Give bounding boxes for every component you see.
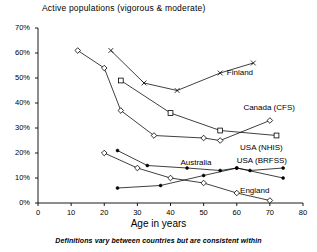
series-label-canada-cfs: Canada (CFS) <box>243 103 295 112</box>
data-point-marker <box>201 180 207 186</box>
series-label-australia: Australia <box>180 158 211 167</box>
y-tick-label: 0% <box>4 198 30 207</box>
data-point-marker <box>101 65 107 71</box>
y-tick-label: 20% <box>4 148 30 157</box>
data-point-marker <box>168 111 173 116</box>
x-tick-label: 20 <box>94 208 114 217</box>
x-tick-label: 60 <box>227 208 247 217</box>
y-tick-label: 30% <box>4 123 30 132</box>
data-point-marker <box>282 177 285 180</box>
data-point-marker <box>217 138 223 144</box>
x-tick-label: 0 <box>28 208 48 217</box>
data-point-marker <box>118 108 124 114</box>
data-point-marker <box>235 167 238 170</box>
data-point-marker <box>116 187 119 190</box>
series-label-finland: Finland <box>227 68 253 77</box>
data-point-marker <box>75 48 81 54</box>
y-tick-label: 50% <box>4 73 30 82</box>
data-point-marker <box>146 164 149 167</box>
x-tick-label: 30 <box>127 208 147 217</box>
data-point-marker <box>218 128 223 133</box>
data-point-marker <box>267 198 273 204</box>
data-point-marker <box>201 135 207 141</box>
data-point-marker <box>251 61 256 66</box>
y-tick-label: 40% <box>4 98 30 107</box>
data-point-marker <box>282 167 285 170</box>
data-point-marker <box>135 165 141 171</box>
data-point-marker <box>202 174 205 177</box>
chart-footnote: Definitions vary between countries but a… <box>0 237 317 244</box>
y-tick-label: 10% <box>4 173 30 182</box>
x-tick-label: 10 <box>61 208 81 217</box>
series-label-usa-brfss: USA (BRFSS) <box>237 156 287 165</box>
y-tick-label: 70% <box>4 23 30 32</box>
series-line-canada-cfs <box>78 51 270 141</box>
x-tick-label: 50 <box>194 208 214 217</box>
series-label-england: England <box>240 186 269 195</box>
chart-figure: Active populations (vigorous & moderate)… <box>0 0 317 252</box>
data-point-marker <box>151 133 157 139</box>
data-point-marker <box>159 184 162 187</box>
data-point-marker <box>267 118 273 124</box>
data-point-marker <box>116 149 119 152</box>
data-point-marker <box>118 78 123 83</box>
data-point-marker <box>218 71 223 76</box>
y-tick-label: 60% <box>4 48 30 57</box>
x-tick-label: 70 <box>260 208 280 217</box>
x-tick-label: 80 <box>293 208 313 217</box>
data-point-marker <box>168 175 174 181</box>
data-point-marker <box>234 190 240 196</box>
x-tick-label: 40 <box>161 208 181 217</box>
data-point-marker <box>274 133 279 138</box>
series-label-usa-nhis: USA (NHIS) <box>240 143 283 152</box>
x-axis-title: Age in years <box>0 218 317 229</box>
data-point-marker <box>101 150 107 156</box>
data-point-marker <box>108 48 113 53</box>
